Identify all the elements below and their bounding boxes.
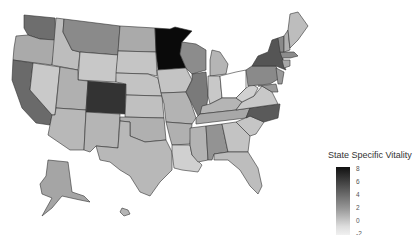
state-ak (40, 160, 90, 216)
legend-tick: -2 (356, 230, 362, 235)
state-nj (276, 68, 284, 84)
legend-title: State Specific Vitality (328, 150, 420, 160)
legend-tick: 8 (356, 165, 360, 172)
state-fl (214, 152, 262, 194)
state-ks (125, 95, 164, 118)
legend-tick: 6 (356, 178, 360, 185)
state-ar (166, 122, 192, 145)
state-nm (84, 112, 120, 152)
state-nd (118, 26, 156, 52)
state-sd (116, 51, 157, 76)
state-mi (210, 50, 228, 76)
legend-tick: 2 (356, 204, 360, 211)
state-mt (63, 19, 120, 55)
us-choropleth-map (0, 0, 310, 235)
state-wy (78, 52, 118, 82)
state-ma (280, 52, 298, 58)
legend-tick: 4 (356, 191, 360, 198)
state-me (288, 12, 308, 48)
state-or (13, 35, 56, 65)
color-legend: State Specific Vitality 8 6 4 2 0 -2 (328, 150, 420, 160)
legend-tick: 0 (356, 217, 360, 224)
legend-gradient-bar (336, 167, 350, 235)
state-ia (157, 68, 192, 93)
state-co (86, 81, 126, 114)
state-hi (120, 208, 130, 216)
state-pa (246, 66, 280, 86)
